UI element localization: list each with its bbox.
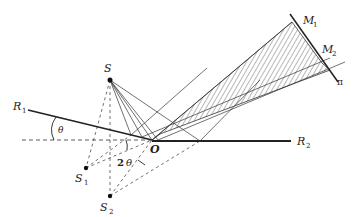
- theta-arc: [51, 117, 56, 140]
- label-m2-sub: 2: [332, 50, 336, 58]
- label-theta: θ: [58, 125, 64, 135]
- label-m1-sub: 1: [313, 21, 317, 29]
- theta-arc-small: [126, 140, 127, 150]
- label-s2-sub: 2: [109, 208, 113, 216]
- label-pi: π: [337, 77, 343, 87]
- ray: [110, 80, 131, 135]
- diagram-canvas: S O R 1 R 2 S 1 S 2 M 1 M 2 π θ 2 θ: [0, 0, 357, 217]
- label-r2-sub: 2: [306, 142, 310, 150]
- reflected-ray: [131, 68, 207, 135]
- source-point-s: [108, 78, 113, 83]
- label-r1-sub: 1: [22, 107, 26, 115]
- label-s1: S: [75, 172, 83, 185]
- interference-region: [152, 22, 330, 140]
- dashed-s2-o: [110, 140, 152, 196]
- two-theta-tick: [138, 160, 145, 165]
- label-r1: R: [12, 100, 21, 113]
- label-s2: S: [100, 201, 108, 214]
- label-s1-sub: 1: [84, 179, 88, 187]
- label-two-theta-num: 2: [117, 157, 124, 168]
- label-s: S: [104, 62, 112, 75]
- label-r2: R: [296, 135, 305, 148]
- ray: [110, 80, 142, 137]
- mirror-r1: [28, 110, 152, 140]
- label-two-theta-sym: θ: [126, 157, 132, 168]
- label-o: O: [150, 143, 160, 156]
- fresnel-mirror-diagram: S O R 1 R 2 S 1 S 2 M 1 M 2 π θ 2 θ: [0, 0, 357, 217]
- image-point-s1: [84, 166, 88, 170]
- image-point-s2: [108, 194, 112, 198]
